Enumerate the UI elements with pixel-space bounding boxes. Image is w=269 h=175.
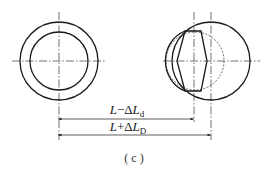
dimension-label-D: L+ΔLD <box>109 119 147 136</box>
dimension-label-d: L−ΔLd <box>109 102 145 119</box>
dimension-d: L−ΔLd <box>58 102 194 119</box>
right-view <box>163 12 260 140</box>
figure-caption: ( c ) <box>124 151 143 165</box>
dimension-D: L+ΔLD <box>58 119 211 136</box>
assembly-diagram: L−ΔLd L+ΔLD ( c ) <box>0 0 269 175</box>
left-view <box>12 12 106 140</box>
